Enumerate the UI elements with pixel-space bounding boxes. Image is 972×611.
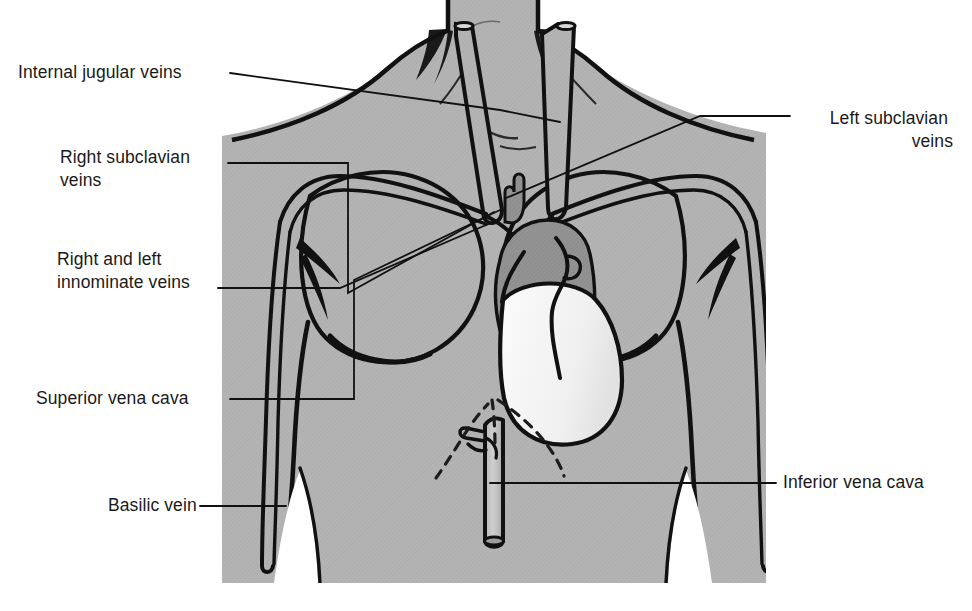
diagram-canvas: Internal jugular veins Right subclavian … xyxy=(0,0,972,611)
torso-group xyxy=(222,0,774,583)
right-internal-jugular-lumen xyxy=(455,22,473,29)
inferior-vena-cava-lumen xyxy=(485,537,504,545)
label-basilic-vein: Basilic vein xyxy=(108,495,197,515)
label-right-subclavian-veins: Right subclavian veins xyxy=(60,147,195,190)
label-right-and-left-innominate-veins: Right and left innominate veins xyxy=(57,249,190,292)
label-internal-jugular-veins: Internal jugular veins xyxy=(18,62,182,82)
anatomical-diagram: Internal jugular veins Right subclavian … xyxy=(0,0,972,611)
label-superior-vena-cava: Superior vena cava xyxy=(36,388,189,408)
left-internal-jugular-lumen xyxy=(557,22,575,29)
label-left-subclavian-veins: Left subclavian veins xyxy=(830,108,953,151)
heart-body xyxy=(500,284,622,445)
label-inferior-vena-cava: Inferior vena cava xyxy=(783,472,924,492)
